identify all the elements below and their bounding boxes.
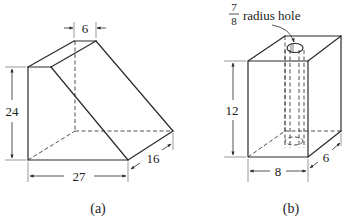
- annotation-text: radius hole: [243, 8, 301, 23]
- dim-label-24: 24: [6, 104, 20, 119]
- dim-base-a: 27: [28, 162, 128, 184]
- edge-back-slope: [96, 41, 173, 131]
- edge-b-top-right-depth: [308, 36, 341, 61]
- caption-a: (a): [90, 201, 106, 217]
- fraction-numerator: 7: [231, 1, 237, 13]
- edge-top-right-depth: [51, 41, 96, 67]
- edge-b-top-left-depth: [248, 36, 285, 61]
- fraction-denominator: 8: [231, 15, 237, 27]
- dim-label-6-depth: 6: [323, 150, 330, 165]
- dim-depth-a: 16: [131, 133, 173, 169]
- figure-b-block: 7 8 radius hole 12 8 6: [224, 1, 341, 217]
- dim-label-12: 12: [226, 103, 239, 118]
- diagram-canvas: 6 24 27 16 (a): [0, 0, 344, 218]
- dim-label-27: 27: [73, 169, 87, 184]
- dim-width-b: 8: [248, 159, 308, 182]
- hole-bottom-ellipse: [285, 137, 303, 145]
- figure-a-wedge: 6 24 27 16 (a): [5, 21, 173, 217]
- dim-height-a: 24: [5, 67, 26, 160]
- dim-depth-b: 6: [310, 133, 341, 168]
- dim-label-8: 8: [275, 164, 282, 179]
- caption-b: (b): [283, 201, 300, 217]
- hidden-edge-a-1: [28, 131, 75, 160]
- hidden-edge-b-1: [248, 131, 285, 157]
- dim-top-width: 6: [64, 21, 106, 38]
- dim-label-6: 6: [82, 21, 89, 36]
- hole-top-icon: [287, 44, 303, 53]
- edge-front-slope: [51, 67, 128, 160]
- edge-top-left-depth: [28, 41, 74, 67]
- leader-arrow: [272, 25, 294, 42]
- dim-height-b: 12: [224, 61, 246, 157]
- dim-label-16: 16: [147, 151, 161, 166]
